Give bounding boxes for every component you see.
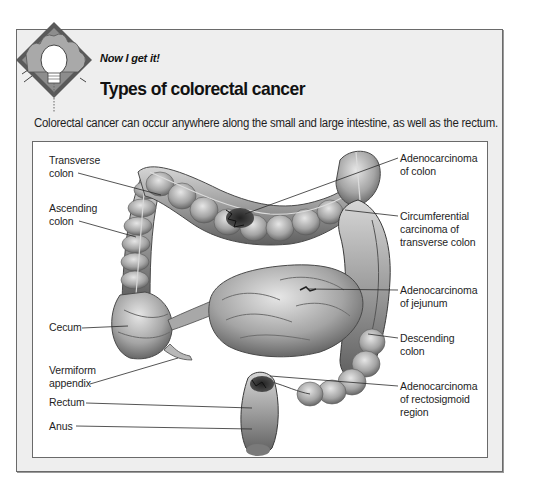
label-adenocarcinoma-rectosigmoid: Adenocarcinoma of rectosigmoid region	[400, 380, 477, 419]
page-title: Types of colorectal cancer	[100, 78, 305, 100]
label-descending-colon: Descending colon	[400, 332, 454, 358]
label-line: Rectum	[49, 396, 85, 409]
label-line: Cecum	[49, 321, 82, 334]
label-line: of rectosigmoid	[400, 393, 477, 406]
label-line: Circumferential	[400, 210, 475, 223]
label-line: Adenocarcinoma	[400, 284, 477, 297]
label-line: of colon	[400, 165, 477, 178]
label-cecum: Cecum	[49, 321, 82, 334]
label-line: colon	[49, 167, 100, 180]
label-line: Anus	[49, 420, 73, 433]
label-vermiform-appendix: Vermiform appendix	[49, 364, 96, 390]
label-line: colon	[400, 345, 454, 358]
label-line: Transverse	[49, 154, 100, 167]
label-line: Vermiform	[49, 364, 96, 377]
label-rectum: Rectum	[49, 396, 85, 409]
intro-text: Colorectal cancer can occur anywhere alo…	[34, 116, 498, 130]
label-circumferential-carcinoma: Circumferential carcinoma of transverse …	[400, 210, 475, 249]
label-line: colon	[49, 215, 97, 228]
label-line: Descending	[400, 332, 454, 345]
label-transverse-colon: Transverse colon	[49, 154, 100, 180]
label-line: region	[400, 406, 477, 419]
lightbulb-icon	[14, 20, 94, 115]
label-line: of jejunum	[400, 297, 477, 310]
label-line: transverse colon	[400, 236, 475, 249]
label-adenocarcinoma-of-colon: Adenocarcinoma of colon	[400, 152, 477, 178]
label-line: Ascending	[49, 202, 97, 215]
label-line: Adenocarcinoma	[400, 380, 477, 393]
label-anus: Anus	[49, 420, 73, 433]
label-line: carcinoma of	[400, 223, 475, 236]
label-adenocarcinoma-of-jejunum: Adenocarcinoma of jejunum	[400, 284, 477, 310]
label-ascending-colon: Ascending colon	[49, 202, 97, 228]
label-line: appendix	[49, 377, 96, 390]
kicker-label: Now I get it!	[100, 52, 160, 64]
label-line: Adenocarcinoma	[400, 152, 477, 165]
